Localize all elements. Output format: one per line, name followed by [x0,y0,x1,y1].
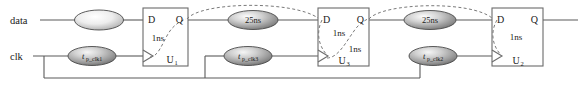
u2-pin-d-label: D [497,14,504,25]
u2-unit-label: U [512,55,520,66]
clk-delay-u3-sublabel: p_clk3 [242,56,258,62]
data-net-delay-node[interactable] [75,10,124,30]
clk-input-label: clk [10,51,24,62]
u1-pin-q-label: Q [176,14,184,25]
clk-delay-u1-sublabel: p_clk1 [86,56,102,62]
q1-to-d3-net-delay-label: 25ns [245,15,261,25]
clk-delay-u2-sublabel: p_clk2 [427,56,443,62]
u3-internal-delay-label-1: 1ns [333,28,346,38]
u3-unit-label: U [338,55,346,66]
u2-pin-q-label: Q [531,14,539,25]
u3-internal-delay-label-2: 1ns [349,44,362,54]
u2-unit-sublabel: 2 [520,60,523,67]
q3-to-d2-net-delay-label: 25ns [422,15,438,25]
u1-unit-label: U [166,54,174,65]
u2-internal-delay-label: 1ns [510,32,523,42]
u3-pin-d-label: D [323,14,330,25]
circuit-diagram-canvas: 25ns 25ns t p_clk1 t p_clk3 t p_clk2 dat… [0,0,580,88]
u1-pin-d-label: D [148,14,155,25]
u3-unit-sublabel: 3 [346,60,349,67]
u1-internal-delay-label: 1ns [152,33,165,43]
u1-unit-sublabel: 1 [174,59,177,66]
u3-pin-q-label: Q [357,14,365,25]
data-input-label: data [10,15,28,26]
